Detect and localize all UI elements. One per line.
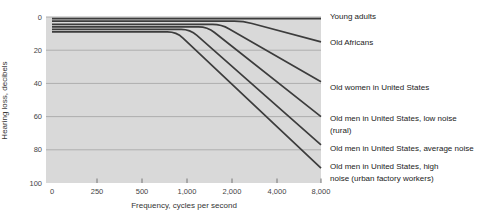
y-tick-label-80: 80 [0,145,42,154]
y-tick-label-40: 40 [0,79,42,88]
x-tick-label-250: 250 [77,187,117,196]
series-label-line: (rural) [330,125,478,137]
series-label-0: Young adults [330,11,478,23]
series-label-line: Old men in United States, high [330,161,478,173]
series-label-line: noise (urban factory workers) [330,173,478,185]
series-label-1: Old Africans [330,37,478,49]
series-label-line: Old women in United States [330,82,478,94]
y-tick-label-20: 20 [0,46,42,55]
series-label-line: Old men in United States, average noise [330,143,478,155]
x-tick-label-2000: 2,000 [212,187,252,196]
series-label-3: Old men in United States, low noise(rura… [330,113,478,137]
y-tick-label-0: 0 [0,13,42,22]
hearing-loss-chart: Hearing loss, decibels Frequency, cycles… [0,0,480,220]
plot-background [46,17,321,183]
series-label-2: Old women in United States [330,82,478,94]
x-tick-label-4000: 4,000 [257,187,297,196]
series-label-5: Old men in United States, highnoise (urb… [330,161,478,185]
series-label-line: Old men in United States, low noise [330,113,478,125]
x-tick-label-0: 0 [32,187,72,196]
series-label-line: Old Africans [330,37,478,49]
series-label-4: Old men in United States, average noise [330,143,478,155]
x-tick-label-500: 500 [122,187,162,196]
y-tick-label-60: 60 [0,112,42,121]
series-label-line: Young adults [330,11,478,23]
x-tick-label-1000: 1,000 [167,187,207,196]
x-tick-label-8000: 8,000 [301,187,341,196]
x-axis-title: Frequency, cycles per second [104,201,264,210]
